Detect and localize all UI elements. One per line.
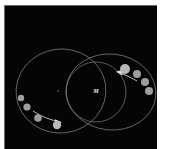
central-mass-label: M [92, 88, 99, 94]
orbiting-body-right-3 [141, 78, 149, 86]
orbiting-body-left-3 [34, 114, 42, 122]
orbiting-body-right-2 [133, 70, 141, 78]
orbital-diagram-svg: M [4, 5, 157, 149]
orbiting-body-right-1 [120, 64, 130, 74]
right-orbit-outer-path [62, 50, 157, 135]
orbiting-body-right-4 [145, 87, 153, 95]
orbiting-body-left-2 [23, 103, 30, 110]
left-orbit-center-marker [57, 90, 59, 92]
figure-root: M [0, 0, 172, 149]
orbiting-body-left-4 [53, 121, 61, 129]
orbiting-body-left-1 [18, 95, 24, 101]
diagram-panel: M [4, 5, 157, 149]
